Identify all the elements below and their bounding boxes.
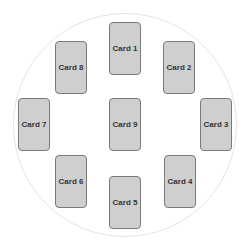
card-5[interactable]: Card 5 xyxy=(109,176,141,229)
card-6[interactable]: Card 6 xyxy=(55,155,87,208)
card-2[interactable]: Card 2 xyxy=(163,41,195,94)
card-label: Card 1 xyxy=(113,44,138,53)
card-label: Card 9 xyxy=(113,120,138,129)
card-label: Card 4 xyxy=(168,177,193,186)
card-label: Card 5 xyxy=(113,198,138,207)
card-label: Card 3 xyxy=(204,120,229,129)
card-label: Card 7 xyxy=(22,120,47,129)
card-9[interactable]: Card 9 xyxy=(109,98,141,151)
card-8[interactable]: Card 8 xyxy=(55,41,87,94)
card-4[interactable]: Card 4 xyxy=(164,155,196,208)
card-label: Card 8 xyxy=(59,63,84,72)
card-label: Card 6 xyxy=(59,177,84,186)
card-7[interactable]: Card 7 xyxy=(18,98,50,151)
card-3[interactable]: Card 3 xyxy=(200,98,232,151)
card-label: Card 2 xyxy=(167,63,192,72)
card-1[interactable]: Card 1 xyxy=(109,22,141,75)
